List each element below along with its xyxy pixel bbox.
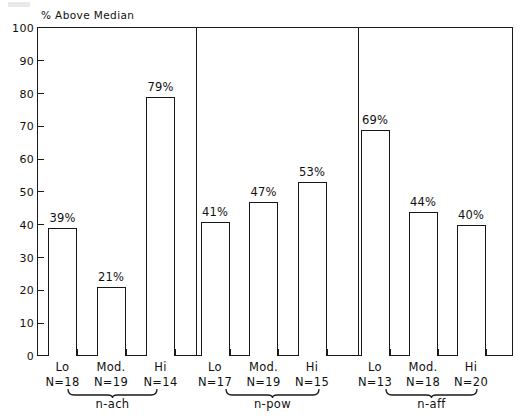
y-tick: [37, 257, 44, 258]
y-tick: [37, 191, 44, 192]
x-tick: [438, 349, 439, 356]
y-axis-title: % Above Median: [41, 9, 134, 21]
y-tick: [37, 126, 44, 127]
y-tick: [37, 290, 44, 291]
x-tick: [201, 349, 202, 356]
group-separator: [358, 28, 359, 356]
x-tick: [249, 349, 250, 356]
bar-value-label: 79%: [147, 80, 173, 94]
bar: [48, 228, 77, 356]
category-n-label: N=20: [454, 375, 488, 389]
x-tick: [457, 349, 458, 356]
group-label: n-aff: [417, 397, 446, 411]
bar: [146, 97, 175, 356]
x-tick: [48, 349, 49, 356]
y-tick-label: 10: [19, 317, 34, 330]
x-tick: [97, 349, 98, 356]
bar: [249, 202, 278, 356]
category-n-label: N=19: [246, 375, 280, 389]
scan-artifact: [8, 2, 30, 7]
x-tick: [390, 349, 391, 356]
bar: [201, 222, 230, 356]
category-n-label: N=14: [143, 375, 177, 389]
y-tick-label: 20: [19, 284, 34, 297]
category-n-label: N=18: [45, 375, 79, 389]
category-n-label: N=17: [198, 375, 232, 389]
x-tick: [77, 349, 78, 356]
x-tick: [486, 349, 487, 356]
category-label: Mod.: [249, 360, 278, 374]
bar: [409, 212, 438, 356]
group-separator: [196, 28, 197, 356]
x-tick: [175, 349, 176, 356]
y-tick: [37, 323, 44, 324]
y-tick-label: 80: [19, 87, 34, 100]
y-tick-label: 100: [12, 22, 34, 35]
bar: [457, 225, 486, 356]
category-n-label: N=15: [295, 375, 329, 389]
y-tick: [37, 224, 44, 225]
bar-value-label: 41%: [202, 205, 228, 219]
category-label: Mod.: [96, 360, 125, 374]
category-label: Lo: [208, 360, 222, 374]
category-label: Lo: [368, 360, 382, 374]
category-n-label: N=19: [94, 375, 128, 389]
category-n-label: N=13: [358, 375, 392, 389]
y-tick: [37, 60, 44, 61]
y-tick-label: 50: [19, 186, 34, 199]
y-tick-label: 70: [19, 120, 34, 133]
category-label: Hi: [465, 360, 477, 374]
x-tick: [146, 349, 147, 356]
category-n-label: N=18: [406, 375, 440, 389]
category-label: Lo: [56, 360, 70, 374]
bar: [298, 182, 327, 356]
x-tick: [298, 349, 299, 356]
y-tick: [37, 93, 44, 94]
y-tick-label: 40: [19, 218, 34, 231]
bar-value-label: 40%: [458, 208, 484, 222]
bar-value-label: 69%: [362, 113, 388, 127]
group-label: n-pow: [254, 397, 291, 411]
x-tick: [278, 349, 279, 356]
category-label: Hi: [306, 360, 318, 374]
bar: [361, 130, 390, 356]
bar-value-label: 39%: [49, 211, 75, 225]
y-tick-label: 90: [19, 54, 34, 67]
bar-value-label: 53%: [299, 165, 325, 179]
y-tick-label: 0: [27, 350, 34, 363]
x-tick: [126, 349, 127, 356]
x-tick: [409, 349, 410, 356]
bar-value-label: 21%: [98, 270, 124, 284]
y-tick-label: 30: [19, 251, 34, 264]
category-label: Mod.: [408, 360, 437, 374]
bar-chart: % Above Median 0102030405060708090100 39…: [0, 0, 530, 419]
x-tick: [361, 349, 362, 356]
x-tick: [327, 349, 328, 356]
y-tick: [37, 159, 44, 160]
bar-value-label: 47%: [250, 185, 276, 199]
bar: [97, 287, 126, 356]
bar-value-label: 44%: [410, 195, 436, 209]
y-tick-label: 60: [19, 153, 34, 166]
x-tick: [230, 349, 231, 356]
category-label: Hi: [154, 360, 166, 374]
group-label: n-ach: [95, 397, 129, 411]
